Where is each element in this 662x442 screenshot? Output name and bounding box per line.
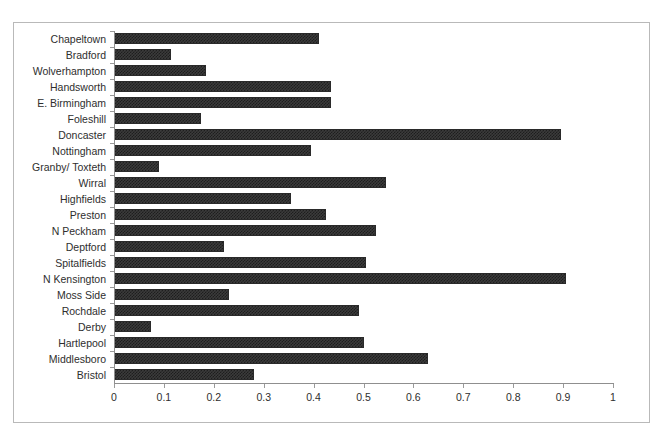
category-label: Wolverhampton xyxy=(14,63,106,79)
plot-area: ChapeltownBradfordWolverhamptonHandswort… xyxy=(14,23,651,424)
bar-row: Handsworth xyxy=(14,79,651,95)
bar-track xyxy=(114,239,613,255)
bar xyxy=(114,257,366,268)
bar xyxy=(114,321,151,332)
x-axis-tick-label: 0.5 xyxy=(349,391,379,403)
category-label: Preston xyxy=(14,207,106,223)
x-axis-tick-label: 0.4 xyxy=(299,391,329,403)
bar xyxy=(114,81,331,92)
category-label: N Kensington xyxy=(14,271,106,287)
bar-track xyxy=(114,175,613,191)
bar-track xyxy=(114,367,613,383)
bar-row: E. Birmingham xyxy=(14,95,651,111)
bar-row: Foleshill xyxy=(14,111,651,127)
bar-track xyxy=(114,95,613,111)
category-label: Deptford xyxy=(14,239,106,255)
category-label: Rochdale xyxy=(14,303,106,319)
x-axis-tick xyxy=(513,384,514,388)
clipped-caption-line xyxy=(0,0,662,12)
bar-track xyxy=(114,79,613,95)
x-axis-tick xyxy=(164,384,165,388)
bar-row: Wirral xyxy=(14,175,651,191)
bar xyxy=(114,33,319,44)
x-axis-tick xyxy=(214,384,215,388)
category-label: N Peckham xyxy=(14,223,106,239)
bar-row: Bristol xyxy=(14,367,651,383)
bar xyxy=(114,241,224,252)
bar-track xyxy=(114,31,613,47)
category-label: Foleshill xyxy=(14,111,106,127)
x-axis-tick-label: 0.7 xyxy=(448,391,478,403)
bar-row: Nottingham xyxy=(14,143,651,159)
category-label: Moss Side xyxy=(14,287,106,303)
bar-track xyxy=(114,223,613,239)
bar-row: Bradford xyxy=(14,47,651,63)
bar-track xyxy=(114,287,613,303)
x-axis-tick-label: 0 xyxy=(99,391,129,403)
bar xyxy=(114,161,159,172)
bar-track xyxy=(114,111,613,127)
category-label: Spitalfields xyxy=(14,255,106,271)
bar xyxy=(114,273,566,284)
bar-track xyxy=(114,191,613,207)
y-axis-line xyxy=(114,31,115,383)
x-axis-tick xyxy=(613,384,614,388)
category-label: Bristol xyxy=(14,367,106,383)
category-label: Wirral xyxy=(14,175,106,191)
x-axis-tick-label: 0.2 xyxy=(199,391,229,403)
bar-row: Chapeltown xyxy=(14,31,651,47)
bar xyxy=(114,209,326,220)
bar xyxy=(114,225,376,236)
bar-row: Middlesboro xyxy=(14,351,651,367)
x-axis-tick xyxy=(364,384,365,388)
bar-track xyxy=(114,271,613,287)
bar xyxy=(114,353,428,364)
bar-row: Hartlepool xyxy=(14,335,651,351)
bar xyxy=(114,145,311,156)
x-axis-tick xyxy=(463,384,464,388)
bar xyxy=(114,177,386,188)
bar xyxy=(114,305,359,316)
x-axis-tick-label: 0.3 xyxy=(249,391,279,403)
category-label: Hartlepool xyxy=(14,335,106,351)
category-label: Chapeltown xyxy=(14,31,106,47)
category-label: Doncaster xyxy=(14,127,106,143)
bar-track xyxy=(114,47,613,63)
category-label: E. Birmingham xyxy=(14,95,106,111)
bar-track xyxy=(114,319,613,335)
bar-rows: ChapeltownBradfordWolverhamptonHandswort… xyxy=(14,31,651,383)
x-axis-tick xyxy=(114,384,115,388)
x-axis-tick-label: 1 xyxy=(598,391,628,403)
bar-track xyxy=(114,159,613,175)
x-axis-tick-label: 0.9 xyxy=(548,391,578,403)
bar xyxy=(114,97,331,108)
x-axis-tick-label: 0.8 xyxy=(498,391,528,403)
bar xyxy=(114,129,561,140)
category-label: Granby/ Toxteth xyxy=(14,159,106,175)
bar-row: Wolverhampton xyxy=(14,63,651,79)
x-axis-tick-label: 0.6 xyxy=(398,391,428,403)
bar-row: Moss Side xyxy=(14,287,651,303)
bar-row: Deptford xyxy=(14,239,651,255)
bar xyxy=(114,113,201,124)
bar-track xyxy=(114,127,613,143)
bar xyxy=(114,65,206,76)
x-axis-tick xyxy=(264,384,265,388)
bar-row: N Kensington xyxy=(14,271,651,287)
x-axis-tick xyxy=(314,384,315,388)
category-label: Handsworth xyxy=(14,79,106,95)
category-label: Nottingham xyxy=(14,143,106,159)
bar-row: Preston xyxy=(14,207,651,223)
category-label: Derby xyxy=(14,319,106,335)
category-label: Bradford xyxy=(14,47,106,63)
bar-track xyxy=(114,335,613,351)
bar xyxy=(114,369,254,380)
bar xyxy=(114,337,364,348)
x-axis-tick-label: 0.1 xyxy=(149,391,179,403)
bar-row: Granby/ Toxteth xyxy=(14,159,651,175)
category-label: Middlesboro xyxy=(14,351,106,367)
bar-row: N Peckham xyxy=(14,223,651,239)
bar-track xyxy=(114,207,613,223)
x-axis-tick xyxy=(563,384,564,388)
bar-track xyxy=(114,63,613,79)
